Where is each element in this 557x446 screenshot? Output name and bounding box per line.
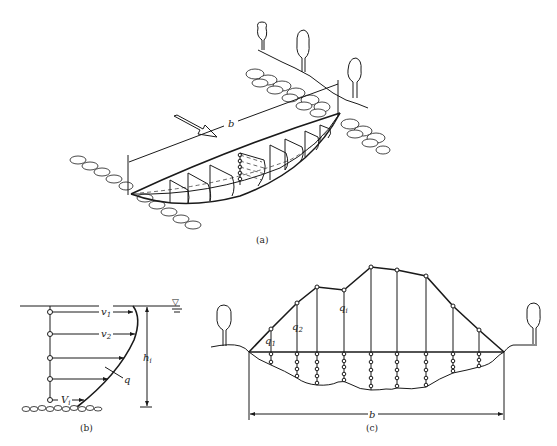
tree-icon — [217, 305, 231, 346]
discharge-points — [269, 265, 481, 332]
unit-discharge-curve — [249, 267, 504, 352]
label-q: q — [124, 374, 130, 385]
figure-canvas: b — [0, 0, 557, 446]
water-surface-symbol: ▽ — [172, 297, 179, 307]
measurement-points — [269, 352, 481, 388]
width-label-b: b — [369, 409, 375, 420]
river-bed-curve — [131, 113, 340, 204]
caption-b: (b) — [80, 423, 93, 433]
left-ground-line — [211, 345, 249, 352]
label-q2: q2 — [292, 321, 303, 334]
velocity-profile-curve — [77, 306, 138, 407]
tree-icon — [348, 58, 361, 98]
caption-c: (c) — [366, 423, 378, 433]
tree-icon — [527, 303, 540, 344]
river-bed-profile — [249, 352, 504, 390]
label-q1: q1 — [265, 335, 276, 348]
tree-icon — [297, 30, 309, 72]
bed-stones — [22, 406, 102, 412]
flow-direction-arrow — [174, 115, 217, 137]
width-dimension-line — [129, 126, 224, 162]
panel-b: ▽ v1 v2 q Vi hi — [20, 297, 182, 433]
tree-icon — [258, 22, 267, 50]
caption-a: (a) — [256, 235, 268, 245]
panel-c: q1 q2 qi b (c) — [211, 265, 540, 433]
label-qi: qi — [339, 302, 348, 315]
panel-a: b — [70, 22, 390, 245]
velocity-arrows — [52, 310, 135, 402]
width-label-b: b — [228, 118, 234, 129]
right-ground-line — [504, 345, 537, 352]
